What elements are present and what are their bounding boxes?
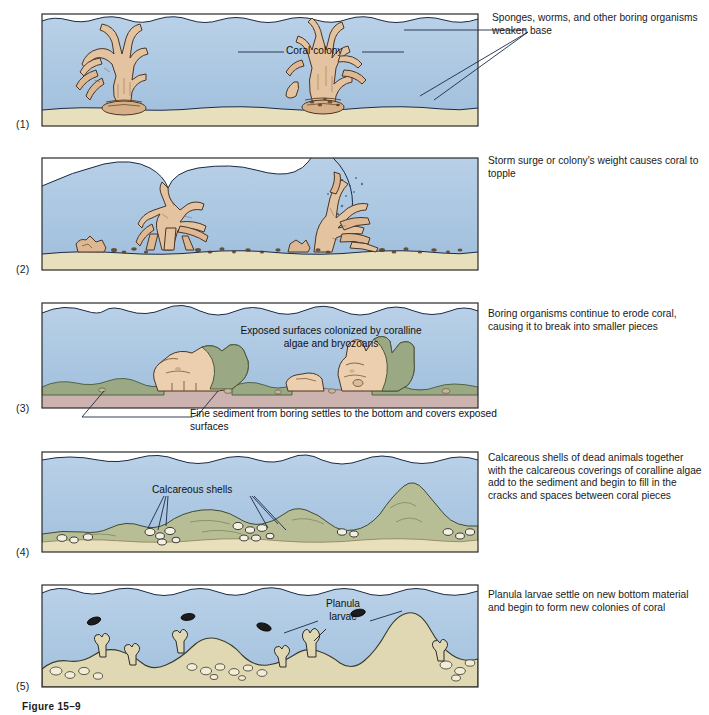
label-exposed-surfaces-text: Exposed surfaces colonized by coralline … (240, 325, 421, 349)
panel-3-side-caption: Boring organisms continue to erode coral… (488, 308, 702, 333)
panel-1: Coral colony (42, 14, 478, 126)
panel-2-number: (2) (16, 263, 29, 275)
panel-4-side-caption: Calcareous shells of dead animals togeth… (488, 452, 702, 502)
panel-5-number: (5) (16, 680, 29, 692)
panel-3-number: (3) (16, 402, 29, 414)
label-calcareous-shells: Calcareous shells (152, 484, 232, 497)
panel-4-number: (4) (16, 546, 29, 558)
panel-3: Exposed surfaces colonized by coralline … (42, 303, 478, 408)
label-planula-larvae: Planula larvae (314, 597, 372, 623)
panel-2 (42, 158, 478, 270)
label-coral-colony: Coral colony (286, 45, 343, 58)
figure-caption: Figure 15–9 (22, 701, 81, 712)
panel-2-side-caption: Storm surge or colony's weight causes co… (488, 155, 702, 180)
panel-4: Calcareous shells (42, 452, 478, 552)
panel-1-side-caption: Sponges, worms, and other boring organis… (492, 12, 706, 37)
panel-2-illustration (42, 158, 478, 270)
panel-5-side-caption: Planula larvae settle on new bottom mate… (488, 589, 702, 614)
panel-1-leaders (238, 16, 468, 106)
label-exposed-surfaces: Exposed surfaces colonized by coralline … (236, 325, 426, 350)
label-fine-sediment: Fine sediment from boring settles to the… (190, 408, 500, 433)
label-planula-line1: Planula (314, 597, 372, 610)
panel-1-number: (1) (16, 118, 29, 130)
panel-5: Planula larvae (42, 585, 478, 687)
label-planula-line2: larvae (314, 610, 372, 623)
figure-root: Coral colony (1) Sponges, worms, and oth… (0, 0, 709, 715)
